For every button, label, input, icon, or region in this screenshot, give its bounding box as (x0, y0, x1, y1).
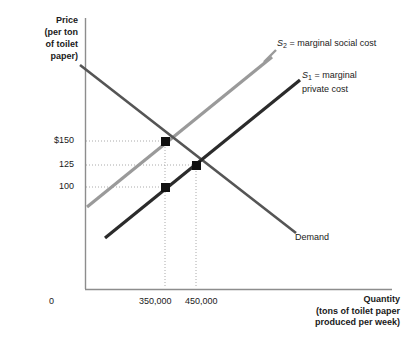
curve-demand (80, 65, 296, 233)
x-tick-label-0: 0 (49, 296, 54, 306)
s1-label-text2: private cost (302, 84, 405, 96)
marker-market-equilibrium (192, 161, 201, 170)
externality-supply-demand-chart: Price (per ton of toilet paper) Quantity… (0, 0, 405, 347)
marker-private-cost-at-optimum (161, 183, 170, 192)
y-tick-label-100: 100 (26, 181, 74, 191)
x-axis-title-line-3: produced per week) (272, 317, 400, 329)
y-axis-title-line-2: (per ton (6, 26, 78, 38)
x-tick-label-450000: 450,000 (185, 296, 218, 306)
y-tick-label-150: $150 (26, 135, 74, 145)
curve-s2-marginal-social-cost (87, 57, 272, 207)
x-tick-label-350000: 350,000 (139, 296, 172, 306)
s1-label-text: = marginal (314, 70, 356, 80)
y-axis-title-line-4: paper) (6, 50, 78, 62)
x-axis-title: Quantity (tons of toilet paper produced … (272, 294, 400, 329)
x-axis-title-line-2: (tons of toilet paper (272, 306, 400, 318)
s1-curve-label: S1 = marginal private cost (302, 70, 405, 95)
s2-subscript: 2 (283, 42, 287, 49)
y-axis-title-line-1: Price (6, 14, 78, 26)
s2-curve-label: S2 = marginal social cost (277, 38, 405, 52)
y-axis-title-line-3: of toilet (6, 38, 78, 50)
y-axis-title: Price (per ton of toilet paper) (6, 14, 78, 62)
x-axis-title-line-1: Quantity (272, 294, 400, 306)
y-tick-label-125: 125 (26, 159, 74, 169)
demand-curve-label: Demand (295, 232, 329, 244)
s2-label-text: = marginal social cost (289, 38, 376, 48)
vertical-guides (165, 141, 196, 288)
s1-subscript: 1 (308, 74, 312, 81)
marker-social-optimum (161, 137, 170, 146)
